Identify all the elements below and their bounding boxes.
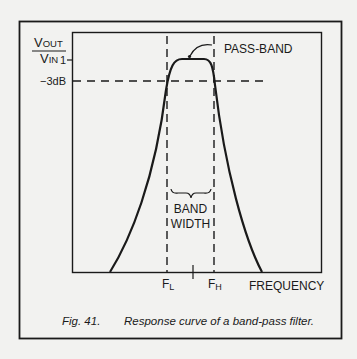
pass-band-arrow [190,45,212,56]
f-high-label: FH [208,277,222,292]
svg-text:VOUT: VOUT [34,35,63,50]
figure-number: Fig. 41. [62,315,124,327]
band-pass-figure: VOUT VIN 1 −3dB PASS-BAND BAND WIDTH [0,0,357,359]
figure-caption-text: Response curve of a band-pass filter. [124,315,314,327]
y-tick-1: 1 [60,54,66,66]
band-width-label-1: BAND [174,202,208,216]
y-tick-3db: −3dB [40,75,66,87]
f-low-label: FL [162,277,174,292]
band-width-brace [171,189,211,198]
svg-text:VIN: VIN [40,51,58,66]
figure-caption: Fig. 41.Response curve of a band-pass fi… [62,315,314,327]
plot-area [73,33,322,273]
band-width-label-2: WIDTH [171,217,210,231]
diagram-canvas: VOUT VIN 1 −3dB PASS-BAND BAND WIDTH [0,0,357,359]
response-curve [110,59,262,272]
pass-band-label: PASS-BAND [224,42,293,56]
pass-band-arrow-head [188,55,191,58]
x-axis-label: FREQUENCY [249,279,324,293]
